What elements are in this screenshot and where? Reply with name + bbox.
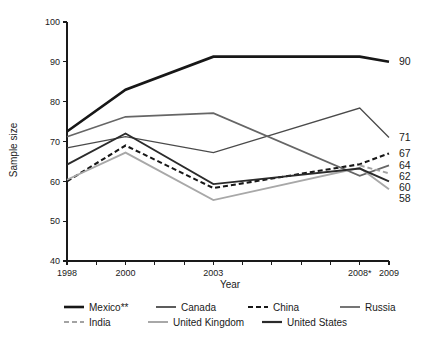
y-tick-label: 40 bbox=[50, 256, 60, 266]
series-end-label: 71 bbox=[399, 131, 411, 143]
y-axis-title: Sample size bbox=[8, 122, 19, 177]
legend-label: China bbox=[273, 302, 300, 313]
x-tick-label: 1998 bbox=[57, 268, 77, 278]
legend-label: United States bbox=[287, 317, 347, 328]
chart-axes bbox=[63, 22, 389, 265]
y-axis-tick-labels: 405060708090100 bbox=[45, 17, 60, 266]
data-series-group bbox=[67, 57, 389, 200]
legend-label: Mexico** bbox=[89, 302, 129, 313]
y-tick-label: 60 bbox=[50, 177, 60, 187]
y-tick-label: 100 bbox=[45, 17, 60, 27]
line-chart: 405060708090100 1998200020032008*2009 90… bbox=[0, 0, 432, 344]
legend-label: Russia bbox=[365, 302, 396, 313]
series-line bbox=[67, 113, 389, 176]
legend-label: United Kingdom bbox=[173, 317, 244, 328]
chart-legend: Mexico**CanadaChinaRussiaIndiaUnited Kin… bbox=[64, 302, 396, 328]
y-tick-label: 50 bbox=[50, 216, 60, 226]
series-end-label: 58 bbox=[399, 192, 411, 204]
series-line bbox=[67, 134, 389, 185]
legend-label: India bbox=[89, 317, 111, 328]
x-tick-label: 2009 bbox=[379, 268, 399, 278]
chart-canvas: 405060708090100 1998200020032008*2009 90… bbox=[0, 0, 432, 344]
x-tick-label: 2008* bbox=[348, 268, 372, 278]
y-tick-label: 90 bbox=[50, 57, 60, 67]
x-tick-label: 2000 bbox=[116, 268, 136, 278]
series-line bbox=[67, 153, 389, 200]
series-end-label: 67 bbox=[399, 147, 411, 159]
y-tick-label: 80 bbox=[50, 97, 60, 107]
y-tick-label: 70 bbox=[50, 137, 60, 147]
series-end-label: 90 bbox=[399, 55, 411, 67]
series-line bbox=[67, 108, 389, 153]
x-axis-tick-labels: 1998200020032008*2009 bbox=[57, 268, 399, 278]
x-axis-title: Year bbox=[220, 279, 241, 290]
end-value-labels: 90716764626058 bbox=[399, 55, 411, 204]
x-tick-label: 2003 bbox=[203, 268, 223, 278]
legend-label: Canada bbox=[181, 302, 216, 313]
